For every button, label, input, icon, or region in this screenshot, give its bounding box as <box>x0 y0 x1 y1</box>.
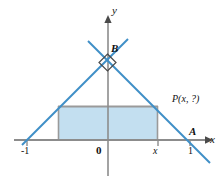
point-label-p: P(x, ?) <box>172 94 199 104</box>
point-label-b: B <box>111 43 118 54</box>
y-axis-label: y <box>112 5 117 16</box>
figure-root: y x B A P(x, ?) -1 0 x 1 <box>0 0 222 180</box>
point-label-a: A <box>189 126 196 137</box>
y-axis-arrowhead <box>104 15 111 23</box>
tick-label-x: x <box>153 146 157 156</box>
x-axis-label: x <box>210 134 215 145</box>
tick-label-one: 1 <box>188 146 193 156</box>
tick-label-origin: 0 <box>96 145 102 156</box>
tick-label-minus-one: -1 <box>21 146 29 156</box>
